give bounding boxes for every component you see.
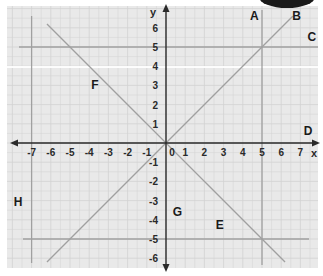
y-tick-label: -5 bbox=[149, 234, 158, 245]
x-tick-label: -6 bbox=[46, 147, 55, 158]
x-tick-label: -3 bbox=[104, 147, 113, 158]
line-label-g: G bbox=[173, 205, 182, 219]
y-tick-label: -3 bbox=[149, 196, 158, 207]
y-tick-label: 2 bbox=[152, 100, 158, 111]
x-tick-label: -5 bbox=[66, 147, 75, 158]
y-axis-label: y bbox=[150, 6, 157, 18]
y-tick-label: 5 bbox=[152, 42, 158, 53]
line-label-a: A bbox=[250, 9, 259, 23]
coordinate-plane: -7-6-5-4-3-2-101234567x654321-1-2-3-4-5-… bbox=[0, 0, 323, 276]
y-tick-label: -6 bbox=[149, 253, 158, 264]
x-tick-label: 7 bbox=[298, 147, 304, 158]
x-tick-label: 6 bbox=[278, 147, 284, 158]
y-tick-label: -2 bbox=[149, 176, 158, 187]
x-tick-label: 2 bbox=[202, 147, 208, 158]
line-label-h: H bbox=[14, 195, 23, 209]
x-axis-label: x bbox=[311, 147, 318, 159]
x-tick-label: -2 bbox=[123, 147, 132, 158]
x-tick-label: 3 bbox=[221, 147, 227, 158]
white-scan-streak bbox=[7, 66, 318, 68]
line-label-c: C bbox=[308, 30, 317, 44]
line-label-f: F bbox=[91, 78, 98, 92]
x-tick-label: 0 bbox=[169, 147, 175, 158]
y-tick-label: -4 bbox=[149, 215, 158, 226]
y-tick-label: 3 bbox=[152, 80, 158, 91]
coordinate-plane-figure: -7-6-5-4-3-2-101234567x654321-1-2-3-4-5-… bbox=[0, 0, 323, 276]
y-tick-label: 1 bbox=[152, 119, 158, 130]
x-tick-label: -7 bbox=[27, 147, 36, 158]
x-tick-label: 1 bbox=[182, 147, 188, 158]
y-tick-label: 6 bbox=[152, 23, 158, 34]
y-tick-label: -1 bbox=[149, 157, 158, 168]
line-label-d: D bbox=[304, 124, 313, 138]
x-tick-label: 5 bbox=[259, 147, 265, 158]
x-tick-label: -4 bbox=[85, 147, 94, 158]
y-tick-label: 4 bbox=[152, 61, 158, 72]
x-tick-label: 4 bbox=[240, 147, 246, 158]
line-label-b: B bbox=[292, 9, 301, 23]
line-label-e: E bbox=[216, 218, 224, 232]
